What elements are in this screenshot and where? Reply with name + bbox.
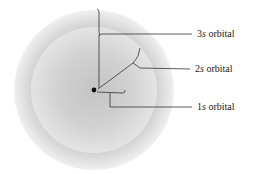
label-3s-orbital: 3s orbital	[197, 29, 235, 39]
orbital-diagram	[0, 0, 254, 174]
nucleus	[92, 88, 97, 93]
label-2s-orbital: 2s orbital	[195, 64, 233, 74]
label-1s-orbital: 1s orbital	[197, 102, 235, 112]
